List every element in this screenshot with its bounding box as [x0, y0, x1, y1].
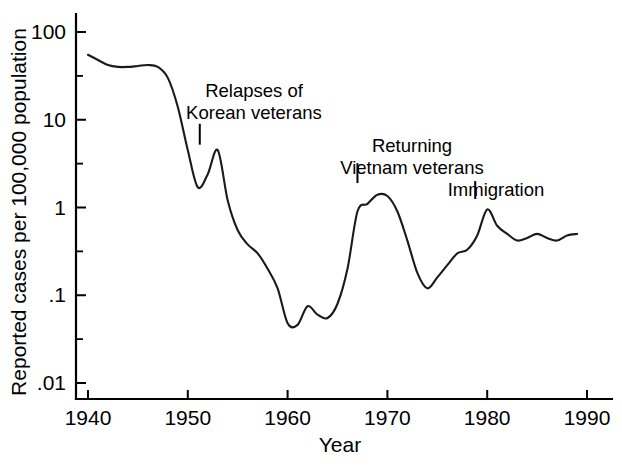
- axes-group: [76, 14, 612, 399]
- y-axis-title: Reported cases per 100,000 population: [7, 28, 30, 396]
- x-tick-label-1950: 1950: [164, 406, 211, 429]
- annotation-relapses-korean-veterans: Relapses ofKorean veterans: [186, 80, 322, 145]
- y-tick-label-10: 10: [43, 108, 66, 131]
- x-tick-labels-group: 194019501960197019801990: [65, 406, 611, 429]
- y-tick-label-100: 100: [31, 20, 66, 43]
- x-tick-label-1960: 1960: [264, 406, 311, 429]
- annotation-immigration: Immigration: [448, 179, 545, 200]
- y-tick-label-.01: .01: [37, 371, 66, 394]
- x-tick-label-1940: 1940: [65, 406, 112, 429]
- y-tick-label-1: 1: [54, 196, 66, 219]
- line-chart: 100101.1.01 194019501960197019801990 Rel…: [0, 0, 622, 470]
- annotation-returning-vietnam-veterans: ReturningVietnam veterans: [340, 135, 484, 183]
- y-tick-labels-group: 100101.1.01: [31, 20, 66, 394]
- axis-ticks-group: [76, 32, 587, 399]
- x-axis-title: Year: [319, 433, 361, 456]
- annotation-label-returning-vietnam-veterans-line-1: Vietnam veterans: [340, 157, 484, 178]
- annotation-label-immigration-line-0: Immigration: [448, 179, 545, 200]
- figure-container: 100101.1.01 194019501960197019801990 Rel…: [0, 0, 622, 470]
- x-tick-label-1990: 1990: [564, 406, 611, 429]
- y-tick-label-.1: .1: [48, 283, 66, 306]
- annotations-group: Relapses ofKorean veteransReturningVietn…: [186, 80, 544, 200]
- x-tick-label-1970: 1970: [364, 406, 411, 429]
- x-tick-label-1980: 1980: [464, 406, 511, 429]
- annotation-label-relapses-korean-veterans-line-1: Korean veterans: [186, 102, 322, 123]
- annotation-label-returning-vietnam-veterans-line-0: Returning: [372, 135, 452, 156]
- annotation-label-relapses-korean-veterans-line-0: Relapses of: [205, 80, 304, 101]
